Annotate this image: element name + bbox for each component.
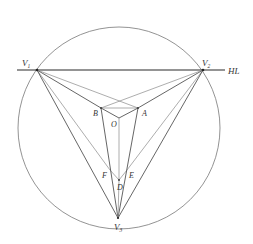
label-v2: V2	[202, 58, 211, 69]
point-v3	[117, 217, 119, 219]
line-v1-v3	[37, 70, 118, 218]
label-b: B	[93, 109, 98, 118]
point-v1	[36, 69, 39, 72]
label-d: D	[116, 183, 123, 192]
label-o: O	[111, 120, 117, 129]
point-b	[100, 107, 102, 109]
point-v2	[202, 69, 205, 72]
edge-b-o	[101, 108, 119, 118]
line-v2-e	[127, 70, 203, 170]
line-v2-v3	[118, 70, 203, 218]
line-v1-f	[37, 70, 110, 170]
line-v1-a	[37, 70, 138, 108]
label-a: A	[141, 109, 147, 118]
label-hl: HL	[227, 66, 240, 76]
edge-a-o	[119, 108, 138, 118]
point-a	[137, 107, 139, 109]
label-v3: V3	[114, 222, 123, 233]
label-e: E	[128, 171, 134, 180]
perspective-diagram: V1 V2 HL B A O F E D V3	[0, 0, 253, 244]
line-v1-b	[37, 70, 101, 108]
line-v2-a	[138, 70, 203, 108]
line-a-v3	[118, 108, 138, 218]
label-f: F	[101, 171, 107, 180]
line-v2-b	[101, 70, 203, 108]
point-d	[118, 179, 120, 181]
diagram-svg: V1 V2 HL B A O F E D V3	[0, 0, 253, 244]
label-v1: V1	[22, 58, 31, 69]
